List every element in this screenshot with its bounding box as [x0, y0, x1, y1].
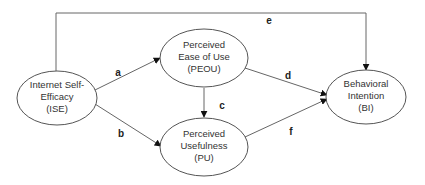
node-peou-line-3: (PEOU)	[187, 63, 220, 74]
node-peou: Perceived Ease of Use (PEOU)	[160, 29, 248, 87]
edge-b	[95, 104, 161, 146]
edge-a	[95, 58, 160, 90]
edge-label-c: c	[219, 100, 225, 111]
node-peou-line-1: Perceived	[183, 39, 225, 50]
node-bi-line-2: Intention	[348, 90, 384, 101]
node-pu-line-2: Usefulness	[181, 140, 228, 151]
node-peou-line-2: Ease of Use	[178, 51, 230, 62]
edge-f	[245, 99, 327, 137]
node-bi-line-1: Behavioral	[344, 78, 389, 89]
node-pu-line-1: Perceived	[183, 128, 225, 139]
path-model-diagram: a b c d e f Internet Self- Efficacy (ISE…	[0, 0, 425, 185]
edge-label-f: f	[289, 126, 293, 137]
edge-label-a: a	[115, 67, 121, 78]
edge-label-e: e	[266, 15, 272, 26]
node-pu-line-3: (PU)	[194, 152, 214, 163]
node-bi-line-3: (BI)	[358, 102, 373, 113]
node-ise: Internet Self- Efficacy (ISE)	[17, 71, 97, 125]
edge-label-b: b	[118, 128, 124, 139]
node-pu: Perceived Usefulness (PU)	[160, 118, 248, 176]
node-ise-line-1: Internet Self-	[30, 79, 84, 90]
node-ise-line-3: (ISE)	[46, 103, 68, 114]
node-bi: Behavioral Intention (BI)	[326, 70, 406, 124]
node-ise-line-2: Efficacy	[40, 91, 73, 102]
edge-label-d: d	[285, 70, 291, 81]
